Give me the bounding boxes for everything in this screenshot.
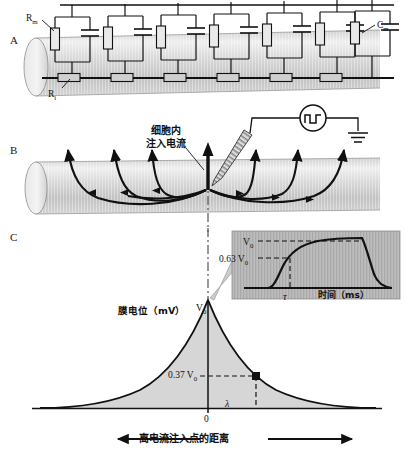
v037-base: 0.37 V [168,370,194,380]
inset-panel [232,231,400,299]
membrane-resistor-icon [210,25,219,47]
panel-letter-a: A [10,34,18,46]
axial-resistor-icon [111,74,133,82]
panel-letter-c: C [10,231,18,243]
membrane-resistor-icon [316,23,325,45]
rm-sub: m [32,18,37,25]
injection-line-1: 细胞内 [146,124,186,137]
axial-resistor-icon [217,74,239,82]
axial-resistor-icon [320,74,342,82]
axial-resistor-icon [164,74,186,82]
inset-x-axis-label: 时间（ms） [318,288,369,301]
y-axis-label: 膜电位（mV） [118,303,185,317]
injection-line-2: 注入电流 [146,137,186,150]
axon-cylinder-b [25,158,380,214]
panel-a-group [24,0,399,96]
membrane-resistor-icon [263,24,272,46]
injection-annotation: 细胞内注入电流 [146,124,186,150]
inset-tau-value-label: 0.63 V0 [219,254,248,266]
v037-sub: 0 [194,375,197,382]
length-constant-label: λ [225,398,229,409]
inset-plateau-label: V0 [243,237,253,249]
ground-icon [348,133,368,142]
ri-sub: i [54,94,56,101]
axial-resistance-label: Ri [48,89,56,101]
decay-point-marker [252,372,260,380]
v0-base: V [196,303,203,313]
injection-arrow-head [203,142,214,156]
membrane-resistance-label: Rm [26,13,38,25]
v0-sub: 0 [203,308,206,315]
inset-063-base: 0.63 V [219,254,245,264]
membrane-resistor-icon [351,22,360,44]
panel-b-group [25,105,380,232]
membrane-capacitance-label: Cm [377,20,389,32]
decay-marker-label: 0.37 V0 [168,370,197,382]
time-constant-label: τ [283,291,287,302]
leader-line-rm [42,20,54,31]
membrane-resistor-icon [157,26,166,48]
inset-v0-base: V [243,237,250,247]
inset-063-sub: 0 [245,259,248,266]
cm-sub: m [383,25,388,32]
cable-properties-figure [0,0,404,455]
pulse-generator-icon [300,105,326,131]
peak-voltage-label: V0 [196,303,206,315]
x-axis-label: 离电流注入点的距离 [139,430,229,445]
panel-letter-b: B [10,144,18,156]
axial-resistor-icon [270,74,292,82]
origin-label: 0 [204,414,209,424]
membrane-resistor-icon [104,27,113,49]
axon-cylinder-a [24,30,380,96]
panel-c-group [32,228,400,439]
inset-v0-sub: 0 [250,242,253,249]
membrane-resistor-icon [51,28,60,50]
